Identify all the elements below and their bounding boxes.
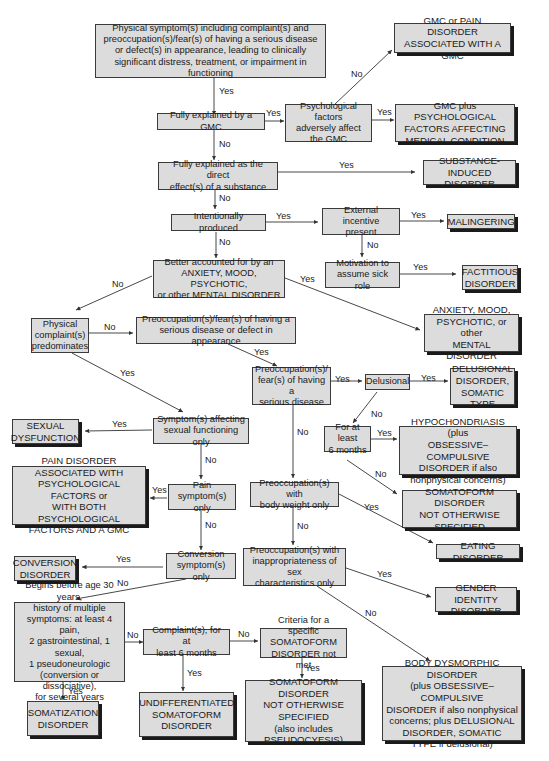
outcome-conversion-disorder: CONVERSION DISORDER	[14, 556, 76, 581]
mental-disorder-decision-box: Better accounted for by an ANXIETY, MOOD…	[153, 260, 285, 298]
edge-label-no: No	[117, 578, 129, 588]
edge-label-yes: Yes	[152, 485, 167, 495]
sick-role-decision-box: Motivation to assume sick role	[325, 262, 400, 288]
outcome-delusional-disorder: DELUSIONAL DISORDER, SOMATIC TYPE	[450, 368, 515, 405]
outcome-factitious-disorder: FACTITIOUS DISORDER	[462, 265, 518, 290]
substance-decision-box: Fully explained as the direct effect(s) …	[158, 162, 278, 190]
edge-label-no: No	[219, 139, 231, 149]
external-incentive-decision-box: External incentive present	[322, 208, 400, 235]
edge-label-yes: Yes	[219, 86, 234, 96]
edge-label-yes: Yes	[377, 569, 392, 579]
edge-label-yes: Yes	[68, 686, 83, 696]
complaints-six-months-decision-box: Complaint(s), for at least 6 months	[143, 629, 230, 655]
edge-label-no: No	[219, 237, 231, 247]
criteria-not-met-decision-box: Criteria for a specific SOMATOFORM DISOR…	[260, 628, 347, 658]
sex-characteristics-decision-box: Preoccupation(s) with inappropriateness …	[243, 548, 346, 586]
edge-label-yes: Yes	[364, 502, 379, 512]
outcome-anxiety-mood-psychotic: ANXIETY, MOOD, PSYCHOTIC, or other MENTA…	[424, 314, 519, 352]
intentional-decision-box: Intentionally produced	[171, 214, 266, 231]
outcome-malingering: MALINGERING	[447, 214, 515, 229]
edge-label-yes: Yes	[377, 107, 392, 117]
start-criteria-box: Physical symptom(s) including complaint(…	[95, 24, 326, 78]
outcome-body-dysmorphic-disorder: BODY DYSMORPHIC DISORDER (plus OBSESSIVE…	[382, 666, 522, 741]
outcome-hypochondriasis: HYPOCHONDRIASIS (plus OBSESSIVE–COMPULSI…	[399, 426, 517, 475]
edge-label-no: No	[297, 521, 309, 531]
edge-label-no: No	[219, 193, 231, 203]
edge-label-yes: Yes	[421, 373, 436, 383]
edge-label-no: No	[205, 520, 217, 530]
edge-label-yes: Yes	[266, 108, 281, 118]
before-age-30-decision-box: Begins before age 30 years, history of m…	[14, 602, 125, 682]
sexual-functioning-decision-box: Symptom(s) affecting sexual functioning …	[153, 418, 249, 444]
outcome-somatization-disorder: SOMATIZATION DISORDER	[27, 701, 99, 736]
body-weight-decision-box: Preoccupation(s) with body weight only	[250, 482, 339, 507]
edge-label-no: No	[371, 409, 383, 419]
gmc-decision-box: Fully explained by a GMC	[157, 113, 265, 130]
outcome-gender-identity-disorder: GENDER IDENTITY DISORDER	[435, 587, 517, 612]
edge-label-yes: Yes	[300, 274, 315, 284]
edge-label-no: No	[365, 608, 377, 618]
edge-label-no: No	[238, 629, 250, 639]
physical-complaints-decision-box: Physical complaint(s) predominates	[31, 318, 89, 353]
preoccupation-disease-defect-box: Preoccupation(s)/fear(s) of having a ser…	[136, 317, 296, 344]
outcome-gmc-pain-disorder: GMC or PAIN DISORDER ASSOCIATED WITH A G…	[394, 23, 511, 53]
edge-label-yes: Yes	[254, 347, 269, 357]
pain-decision-box: Pain symptom(s) only	[168, 484, 236, 510]
edge-label-no: No	[205, 455, 217, 465]
outcome-eating-disorder: EATING DISORDER	[436, 544, 520, 559]
edge-label-yes: Yes	[120, 368, 135, 378]
edge-label-yes: Yes	[116, 554, 131, 564]
outcome-somatoform-nos-b: SOMATOFORM DISORDER NOT OTHERWISE SPECIF…	[245, 680, 362, 742]
edge-label-no: No	[351, 69, 363, 79]
edge-label-yes: Yes	[339, 160, 354, 170]
edge-label-yes: Yes	[377, 428, 392, 438]
delusional-decision-box: Delusional	[365, 374, 410, 390]
edge-label-no: No	[367, 240, 379, 250]
edge-label-yes: Yes	[305, 663, 320, 673]
edge-label-no: No	[375, 469, 387, 479]
outcome-gmc-psychological-factors: GMC plus PSYCHOLOGICAL FACTORS AFFECTING…	[395, 104, 515, 142]
edge-label-yes: Yes	[411, 210, 426, 220]
edge-label-yes: Yes	[187, 668, 202, 678]
edge-label-yes: Yes	[112, 419, 127, 429]
edge-label-yes: Yes	[276, 211, 291, 221]
preoccupation-disease-box: Preoccupation(s)/ fear(s) of having a se…	[252, 367, 331, 405]
edge-label-no: No	[104, 322, 116, 332]
edge-label-yes: Yes	[335, 374, 350, 384]
outcome-somatoform-nos-a: SOMATOFORM DISORDER NOT OTHERWISE SPECIF…	[402, 490, 517, 528]
psychological-factors-decision-box: Psychological factors adversely affect t…	[285, 104, 372, 142]
outcome-substance-induced-disorder: SUBSTANCE- INDUCED DISORDER	[423, 160, 516, 185]
outcome-sexual-dysfunction: SEXUAL DYSFUNCTION	[12, 419, 79, 444]
edge-label-no: No	[297, 427, 309, 437]
edge-label-yes: Yes	[413, 262, 428, 272]
outcome-undifferentiated-somatoform: UNDIFFERENTIATED SOMATOFORM DISORDER	[139, 692, 234, 737]
conversion-decision-box: Conversion symptom(s) only	[166, 553, 236, 579]
edge-label-no: No	[127, 630, 139, 640]
outcome-pain-disorder: PAIN DISORDER ASSOCIATED WITH PSYCHOLOGI…	[12, 466, 146, 525]
edge-label-no: No	[112, 279, 124, 289]
six-months-decision-box-a: For at least 6 months	[324, 426, 371, 452]
